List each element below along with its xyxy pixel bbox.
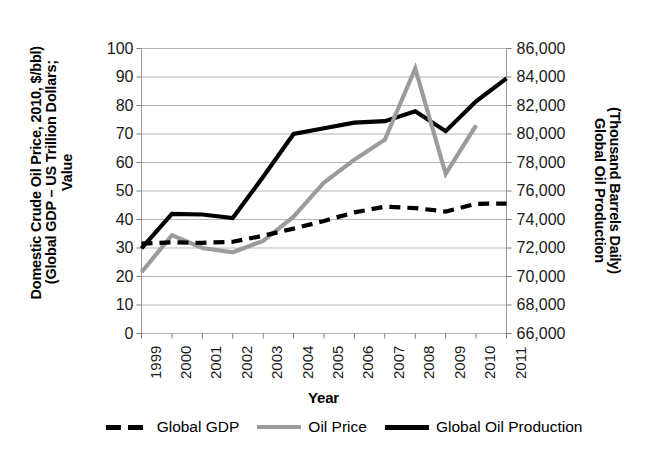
- legend-label-oil-price: Oil Price: [308, 418, 367, 436]
- gridlines: [142, 49, 507, 334]
- axis-tickmarks: [137, 49, 512, 339]
- legend-item-global-oil-production: Global Oil Production: [385, 418, 582, 436]
- legend-item-oil-price: Oil Price: [257, 418, 367, 436]
- legend-label-global-gdp: Global GDP: [157, 418, 240, 436]
- chart-legend: Global GDP Oil Price Global Oil Producti…: [104, 412, 584, 442]
- legend-item-global-gdp: Global GDP: [106, 418, 240, 436]
- series-line-global-gdp: [142, 204, 507, 244]
- legend-label-global-oil-production: Global Oil Production: [436, 418, 582, 436]
- chart-figure: Value (Global GDP – US Trillion Dollars;…: [0, 0, 656, 454]
- plot-area: [0, 0, 656, 454]
- series-line-oil-price: [142, 68, 477, 272]
